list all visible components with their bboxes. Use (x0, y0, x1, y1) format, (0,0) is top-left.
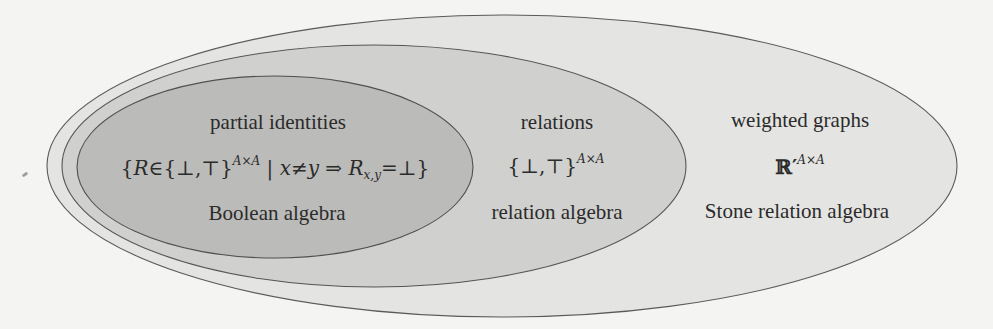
weighted-graphs-formula: ℝ′A×A (775, 157, 824, 177)
partial-identities-structure: Boolean algebra (208, 203, 345, 224)
partial-identities-title: partial identities (210, 112, 346, 133)
relations-structure: relation algebra (491, 202, 622, 223)
relations-title: relations (521, 112, 593, 133)
weighted-graphs-structure: Stone relation algebra (705, 201, 889, 222)
relations-formula: {⊥,⊤}A×A (508, 156, 605, 176)
weighted-graphs-title: weighted graphs (731, 110, 869, 131)
partial-identities-formula: {R∈{⊥,⊤}A×A | x≠y ⇒ Rx,y=⊥} (121, 158, 429, 178)
